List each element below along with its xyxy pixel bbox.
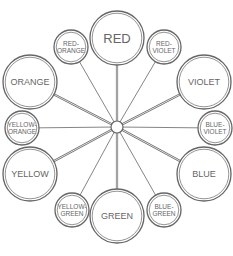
- color-node-yellow: YELLOW: [3, 147, 57, 201]
- color-label-red-orange: ORANGE: [57, 47, 86, 54]
- color-label-yellow: YELLOW: [11, 169, 49, 179]
- color-node-red: RED: [90, 11, 144, 65]
- color-node-red-violet: RED-VIOLET: [147, 30, 181, 64]
- color-label-yellow-orange: ORANGE: [8, 128, 37, 135]
- color-node-blue-violet: BLUE-VIOLET: [198, 111, 232, 145]
- color-label-blue-violet: VIOLET: [203, 128, 226, 135]
- color-label-yellow-green: GREEN: [60, 210, 83, 217]
- color-node-blue: BLUE: [177, 147, 231, 201]
- color-node-violet: VIOLET: [177, 55, 231, 109]
- color-node-yellow-green: YELLOW-GREEN: [55, 193, 89, 227]
- color-label-blue-green: GREEN: [152, 210, 175, 217]
- color-node-yellow-orange: YELLOW-ORANGE: [5, 111, 39, 145]
- color-wheel-diagram: RED-VIOLETBLUE-VIOLETBLUE-GREENYELLOW-GR…: [0, 0, 233, 256]
- color-label-blue: BLUE: [192, 169, 216, 179]
- color-node-orange: ORANGE: [3, 55, 57, 109]
- color-node-green: GREEN: [90, 189, 144, 243]
- color-label-violet: VIOLET: [188, 77, 221, 87]
- color-node-blue-green: BLUE-GREEN: [147, 193, 181, 227]
- color-label-orange: ORANGE: [10, 77, 49, 87]
- color-label-green: GREEN: [101, 211, 133, 221]
- center-hub: [111, 121, 123, 133]
- color-label-red-violet: VIOLET: [152, 47, 175, 54]
- color-node-red-orange: RED-ORANGE: [54, 30, 88, 64]
- color-label-red: RED: [103, 31, 130, 46]
